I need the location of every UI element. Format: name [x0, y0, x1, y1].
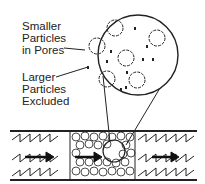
mobile-phase-right — [138, 134, 194, 176]
larger-leader-line — [56, 67, 88, 77]
column-diagram — [0, 0, 205, 184]
zoom-focus-circle — [103, 140, 125, 162]
smaller-leader-line — [64, 48, 85, 50]
porous-beads — [89, 20, 165, 88]
arrow-right-icon — [75, 152, 102, 162]
small-particles — [87, 27, 154, 91]
magnified-view-circle — [98, 15, 178, 95]
